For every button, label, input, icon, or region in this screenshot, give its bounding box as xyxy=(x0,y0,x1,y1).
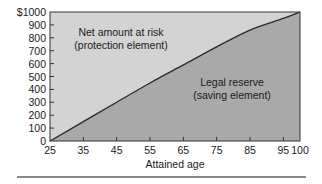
legal-reserve-label: Legal reserve xyxy=(200,76,264,88)
y-tick-label: 800 xyxy=(28,32,46,44)
y-tick-label: 900 xyxy=(28,19,46,31)
x-tick-label: 100 xyxy=(291,144,309,156)
saving-element-label: (saving element) xyxy=(193,89,271,101)
x-tick-label: 85 xyxy=(244,144,256,156)
x-tick-label: 35 xyxy=(77,144,89,156)
y-tick-label: 600 xyxy=(28,58,46,70)
x-tick-label: 25 xyxy=(44,144,56,156)
y-axis: 0100200300400500600700800900$1000 xyxy=(17,6,54,147)
reserve-vs-risk-chart: 0100200300400500600700800900$1000 253545… xyxy=(0,0,322,184)
x-tick-label: 55 xyxy=(144,144,156,156)
x-tick-label: 65 xyxy=(177,144,189,156)
x-tick-label: 75 xyxy=(211,144,223,156)
y-tick-label: 500 xyxy=(28,71,46,83)
y-tick-label: 100 xyxy=(28,122,46,134)
x-tick-label: 45 xyxy=(111,144,123,156)
y-tick-label: $1000 xyxy=(17,6,46,18)
y-tick-label: 300 xyxy=(28,96,46,108)
net-amount-at-risk-label: Net amount at risk xyxy=(78,26,164,38)
y-tick-label: 700 xyxy=(28,45,46,57)
y-tick-label: 400 xyxy=(28,83,46,95)
x-axis-title: Attained age xyxy=(146,158,205,170)
protection-element-label: (protection element) xyxy=(74,39,167,51)
y-tick-label: 200 xyxy=(28,109,46,121)
x-tick-label: 95 xyxy=(277,144,289,156)
